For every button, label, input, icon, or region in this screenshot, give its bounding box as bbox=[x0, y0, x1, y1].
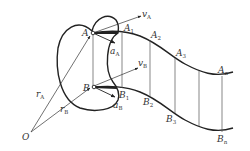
label-vA: vA bbox=[142, 9, 152, 20]
label-B2: B2 bbox=[142, 97, 153, 108]
label-A: A bbox=[81, 28, 89, 38]
label-rA: rA bbox=[36, 89, 45, 100]
vector-vB bbox=[94, 68, 138, 86]
label-Bn: Bn bbox=[216, 134, 228, 145]
label-O: O bbox=[22, 132, 30, 142]
label-B1: B1 bbox=[118, 90, 129, 101]
label-aA: aA bbox=[110, 46, 120, 57]
label-A1: A1 bbox=[123, 23, 134, 34]
label-B: B bbox=[82, 83, 90, 93]
label-rB: rB bbox=[60, 104, 68, 115]
vector-aA bbox=[93, 33, 115, 43]
point-B-marker bbox=[92, 85, 96, 89]
label-aB: aB bbox=[113, 100, 122, 111]
vector-rA bbox=[31, 36, 90, 132]
point-A-marker bbox=[91, 31, 95, 35]
translation-diagram: O A B rA rB vA vB aA aB A1 A2 A3 An B1 B… bbox=[0, 0, 250, 151]
label-A2: A2 bbox=[150, 30, 161, 41]
label-A3: A3 bbox=[175, 48, 187, 59]
label-vB: vB bbox=[138, 58, 147, 69]
label-An: An bbox=[217, 65, 229, 76]
label-B3: B3 bbox=[165, 114, 177, 125]
